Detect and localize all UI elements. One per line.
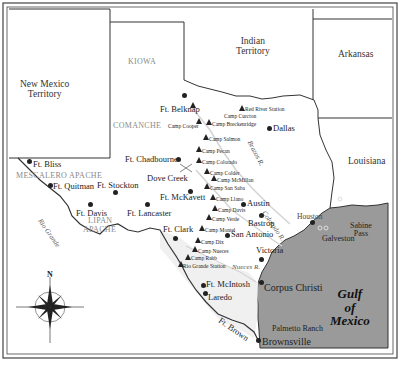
gulf-line-2: of bbox=[330, 301, 370, 315]
city-marker bbox=[256, 338, 261, 343]
camp-san-saba: Camp San Saba bbox=[210, 186, 245, 192]
city-victoria: Victoria bbox=[256, 246, 283, 255]
city-marker bbox=[259, 257, 264, 262]
city-houston: Houston bbox=[297, 213, 322, 221]
camp-llano: Camp Llano bbox=[216, 197, 243, 203]
city-corpus-christi: Corpus Christi bbox=[264, 283, 323, 293]
fort-marker bbox=[182, 93, 187, 98]
fort-chadbourne: Ft. Chadbourne bbox=[125, 155, 178, 164]
city-laredo: Laredo bbox=[208, 293, 232, 302]
region-louisiana: Louisiana bbox=[348, 157, 385, 167]
gulf-line-3: Mexico bbox=[330, 314, 370, 328]
camp-red-river: Red River Station bbox=[245, 107, 284, 113]
compass-rose bbox=[16, 277, 84, 343]
gulf-line-1: Gulf bbox=[330, 287, 370, 301]
camp-breckenridge: Camp Breckenridge bbox=[212, 122, 256, 128]
region-new-mexico: New Mexico Territory bbox=[20, 80, 69, 99]
camp-pecan: Camp Pecan bbox=[202, 149, 230, 155]
city-dallas: Dallas bbox=[273, 124, 295, 133]
camp-mcmillan: Camp McMillan bbox=[217, 178, 254, 184]
city-san-antonio: San Antonio bbox=[231, 230, 273, 239]
fort-mckavett: Ft. McKavett bbox=[160, 193, 205, 202]
fort-marker bbox=[27, 159, 32, 164]
fort-marker bbox=[173, 236, 178, 241]
region-indian-territory: Indian Territory bbox=[236, 37, 270, 56]
camp-marker bbox=[190, 102, 196, 108]
compass-north-label: N bbox=[47, 271, 53, 279]
camp-colorado: Camp Colorado bbox=[202, 160, 237, 166]
camp-dix: Camp Dix bbox=[201, 240, 224, 246]
city-brownsville: Brownsville bbox=[262, 337, 311, 347]
fort-marker bbox=[88, 202, 93, 207]
city-marker bbox=[267, 126, 272, 131]
fort-mcintosh: Ft. McIntosh bbox=[206, 280, 250, 289]
camp-verde: Camp Verde bbox=[212, 217, 239, 223]
camp-rabb: Camp Rabb bbox=[191, 256, 217, 262]
fort-marker bbox=[145, 202, 150, 207]
tribe-apache: APACHE bbox=[83, 226, 116, 234]
fort-marker bbox=[113, 190, 118, 195]
fort-bliss: Ft. Bliss bbox=[33, 160, 61, 169]
city-marker bbox=[241, 202, 246, 207]
city-marker bbox=[225, 233, 230, 238]
city-palmetto-ranch: Palmetto Ranch bbox=[272, 325, 323, 333]
tribe-lipan: LIPAN bbox=[88, 217, 112, 225]
fort-davis: Ft. Davis bbox=[76, 209, 107, 218]
tribe-mescalero: MESCALERO APACHE bbox=[16, 172, 102, 180]
camp-rio-grande-station: Rio Grande Station bbox=[183, 264, 225, 270]
city-bastrop: Bastrop bbox=[248, 219, 274, 228]
camp-salmon: Camp Salmon bbox=[209, 137, 240, 143]
fort-stockton: Ft. Stockton bbox=[97, 181, 139, 190]
fort-lancaster: Ft. Lancaster bbox=[127, 209, 171, 218]
region-arkansas: Arkansas bbox=[338, 50, 373, 60]
city-austin: Austin bbox=[247, 199, 270, 208]
site-dove-creek: Dove Creek bbox=[147, 174, 188, 183]
river-nueces: Nueces R. bbox=[232, 264, 260, 271]
fort-clark: Ft. Clark bbox=[163, 225, 193, 234]
camp-davis: Camp Davis bbox=[218, 208, 245, 214]
region-gulf-of-mexico: Gulf of Mexico bbox=[330, 287, 370, 328]
camp-nueces: Camp Nueces bbox=[198, 249, 229, 255]
camp-cooper: Camp Cooper bbox=[168, 124, 199, 130]
city-sabine-pass: Sabine Pass bbox=[350, 222, 372, 238]
fort-quitman: Ft. Quitman bbox=[53, 182, 94, 191]
camp-curcton: Camp Curcton bbox=[224, 114, 256, 120]
tribe-comanche: COMANCHE bbox=[113, 122, 161, 130]
tribe-kiowa: KIOWA bbox=[128, 58, 156, 66]
